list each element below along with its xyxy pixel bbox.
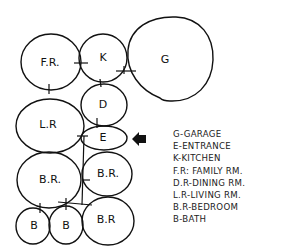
svg-text:K: K: [99, 51, 107, 64]
room-bath-1: B: [16, 208, 50, 244]
svg-text:F.R.: F.R.: [41, 56, 60, 69]
room-bath-2: B: [49, 206, 83, 244]
legend-item-living-room: L.R-LIVING RM.: [173, 189, 245, 201]
room-bedroom-1: B.R.: [17, 152, 81, 208]
room-dining: D: [81, 84, 127, 126]
room-bedroom-3: B.R: [82, 197, 134, 245]
legend-item-garage: G-GARAGE: [173, 128, 245, 140]
legend-item-bath: B-BATH: [173, 213, 245, 225]
room-family: F.R.: [21, 34, 81, 90]
svg-text:L.R: L.R: [39, 118, 57, 131]
room-entrance: E: [81, 126, 127, 150]
room-living: L.R: [16, 99, 84, 153]
svg-text:D: D: [99, 98, 107, 111]
svg-text:B: B: [62, 219, 70, 232]
connection-marks: [40, 63, 136, 213]
room-kitchen: K: [79, 34, 127, 82]
svg-text:B.R.: B.R.: [39, 173, 61, 186]
svg-text:E: E: [100, 131, 107, 144]
room-bedroom-2: B.R.: [82, 152, 132, 196]
legend-item-kitchen: K-KITCHEN: [173, 152, 245, 164]
legend-item-family-room: F.R: FAMILY RM.: [173, 165, 245, 177]
room-garage: G: [128, 17, 213, 101]
entry-arrow-icon: [132, 132, 146, 146]
legend-item-bedroom: B.R-BEDROOM: [173, 201, 245, 213]
legend: G-GARAGE E-ENTRANCE K-KITCHEN F.R: FAMIL…: [173, 128, 245, 226]
svg-text:B: B: [30, 219, 38, 232]
svg-text:B.R: B.R: [97, 213, 116, 226]
legend-item-dining-room: D.R-DINING RM.: [173, 177, 245, 189]
svg-text:B.R.: B.R.: [97, 167, 119, 180]
svg-text:G: G: [161, 53, 170, 66]
legend-item-entrance: E-ENTRANCE: [173, 140, 245, 152]
